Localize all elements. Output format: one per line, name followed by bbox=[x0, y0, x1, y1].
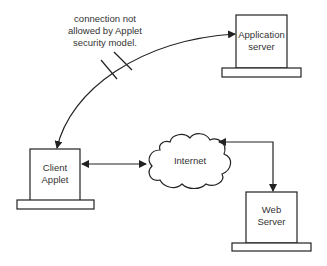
app-server-label: Application server bbox=[236, 29, 287, 53]
break-marks bbox=[101, 52, 132, 79]
security-annotation: connection not allowed by Applet securit… bbox=[55, 13, 155, 49]
web-server-label: Web Server bbox=[246, 204, 297, 228]
blocked-connection-arc bbox=[57, 34, 235, 148]
client-applet-label: Client Applet bbox=[30, 162, 80, 186]
internet-label: Internet bbox=[160, 155, 220, 167]
